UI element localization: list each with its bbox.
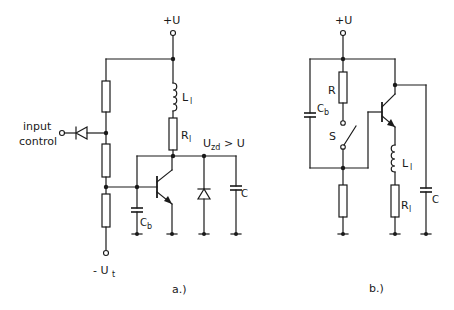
svg-text:> U: > U — [224, 137, 245, 150]
caption-a: a.) — [172, 283, 187, 296]
switch-S — [341, 126, 356, 149]
svg-text:C: C — [241, 188, 248, 199]
svg-text:L: L — [402, 157, 409, 170]
neg-supply-terminal — [104, 251, 109, 256]
panel-a: +U - U t input control L l — [19, 14, 248, 296]
input-diode — [76, 127, 87, 139]
svg-text:l: l — [410, 163, 412, 172]
svg-text:t: t — [112, 270, 115, 279]
npn-transistor-a — [157, 156, 172, 234]
input-control-terminal — [60, 131, 65, 136]
svg-text:l: l — [409, 205, 411, 214]
inductor-Ll-a — [173, 83, 177, 111]
supply-label-a: +U — [163, 14, 180, 27]
svg-text:C: C — [432, 194, 439, 205]
resistor-Rl-a — [169, 118, 177, 150]
control-label: control — [19, 135, 57, 148]
resistor-R-b — [339, 72, 347, 103]
svg-text:R: R — [401, 199, 409, 212]
svg-text:R: R — [328, 84, 336, 97]
panel-b: +U C b R S — [304, 14, 439, 295]
circuit-diagram: +U - U t input control L l — [0, 0, 454, 310]
bottom-resistor-b — [339, 185, 347, 217]
svg-text:b: b — [324, 108, 329, 117]
resistor-Rl-b — [391, 185, 399, 217]
divider-resistor-bottom — [102, 194, 110, 227]
svg-text:l: l — [189, 135, 191, 144]
svg-text:l: l — [190, 97, 192, 106]
input-label: input — [23, 120, 52, 133]
svg-text:L: L — [182, 91, 189, 104]
inductor-Ll-b — [391, 145, 395, 172]
npn-transistor-b — [368, 94, 395, 127]
svg-text:S: S — [329, 130, 336, 143]
neg-supply-label: - U — [93, 264, 109, 277]
divider-resistor-top — [102, 81, 110, 112]
svg-text:C: C — [317, 103, 324, 114]
divider-resistor-middle — [102, 144, 110, 177]
supply-terminal-a — [171, 31, 176, 36]
caption-b: b.) — [369, 282, 384, 295]
svg-text:C: C — [140, 217, 147, 228]
svg-text:b: b — [147, 222, 152, 231]
supply-label-b: +U — [335, 14, 352, 27]
svg-text:R: R — [181, 129, 189, 142]
ground-nodes-a — [132, 232, 241, 236]
ground-nodes-b — [338, 232, 431, 236]
uzd-label: U — [203, 137, 211, 150]
supply-terminal-b — [341, 31, 346, 36]
svg-text:zd: zd — [211, 143, 220, 152]
zener-diode — [198, 156, 210, 234]
